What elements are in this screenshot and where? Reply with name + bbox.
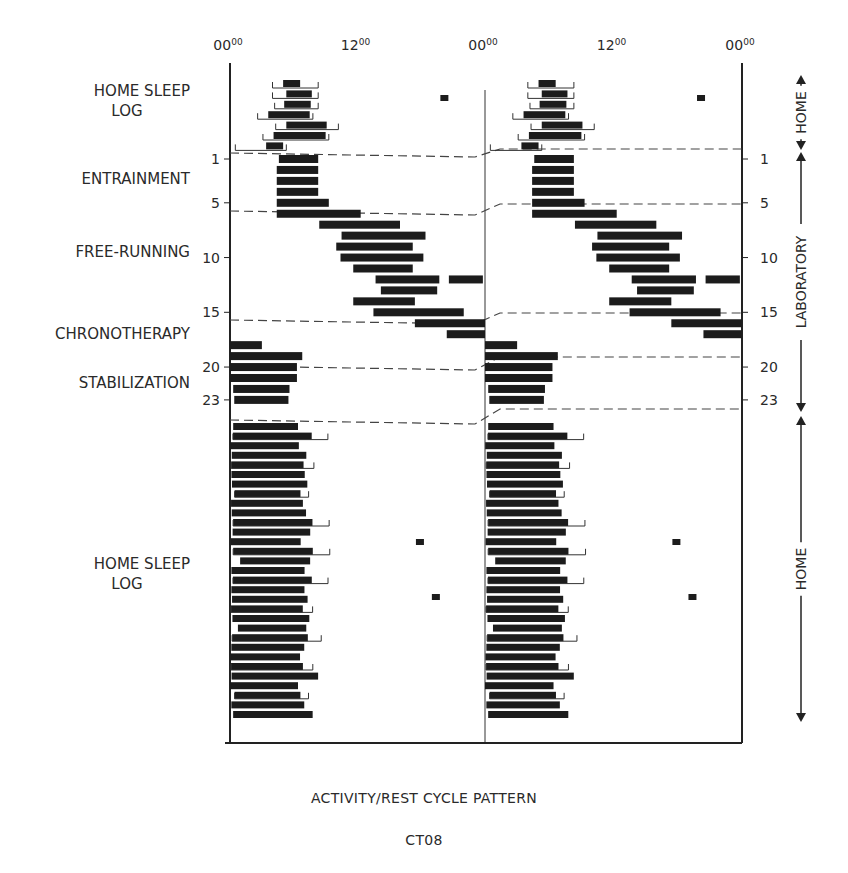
sleep-bar (521, 142, 538, 149)
sleep-bar (529, 132, 581, 139)
sleep-bar (233, 519, 312, 526)
phase-labels: HOME SLEEPLOGENTRAINMENTFREE-RUNNINGCHRO… (55, 82, 191, 593)
sleep-bar (233, 529, 311, 536)
arrow-up-icon (796, 75, 806, 84)
sleep-bar (277, 166, 318, 174)
sleep-bar (230, 341, 262, 349)
sleep-bar (487, 481, 563, 488)
sleep-bar (231, 461, 303, 468)
sleep-bar (274, 132, 326, 139)
sleep-bar (485, 363, 552, 371)
sleep-bar (268, 111, 309, 118)
day-tick-label: 15 (760, 304, 778, 320)
sleep-bar (373, 308, 463, 316)
sleep-bar (232, 452, 307, 459)
sleep-bar (597, 232, 682, 240)
sleep-bar (488, 577, 567, 584)
sleep-bar (234, 396, 288, 404)
sleep-bar (266, 142, 283, 149)
sleep-bar (671, 319, 742, 327)
phase-label: HOME SLEEP (94, 82, 190, 100)
sleep-bar (486, 538, 557, 545)
sleep-bar (485, 653, 555, 660)
location-label: HOME (793, 548, 809, 590)
sleep-bar (231, 567, 304, 574)
sleep-bar (231, 644, 304, 651)
sleep-bar (231, 471, 304, 478)
sleep-bar (353, 297, 415, 305)
sleep-bar (230, 363, 297, 371)
x-tick-label: 0000 (725, 37, 755, 53)
sleep-bar (235, 692, 301, 699)
sleep-bar (485, 374, 552, 382)
arrow-down-icon (796, 713, 806, 722)
sleep-bar (488, 519, 568, 526)
day-tick-label: 1 (211, 151, 220, 167)
nap-bar (440, 95, 448, 101)
sleep-bar (532, 199, 584, 207)
sleep-bar (232, 673, 319, 680)
sleep-bar (539, 80, 556, 87)
x-axis-ticks: 00001200000012000000 (213, 37, 755, 53)
day-tick-label: 15 (202, 304, 220, 320)
sleep-bar (341, 254, 424, 262)
sleep-bar (532, 177, 574, 185)
sleep-bar (230, 653, 300, 660)
sleep-bar (486, 471, 560, 478)
arrow-down-icon (796, 141, 806, 150)
sleep-bar (286, 122, 326, 129)
sleep-bar (232, 509, 306, 516)
sleep-bar (238, 625, 306, 632)
x-tick-label: 1200 (341, 37, 371, 53)
sleep-bar (231, 701, 304, 708)
sleep-bar (532, 188, 574, 196)
phase-label: ENTRAINMENT (82, 170, 191, 188)
sleep-bar (486, 701, 559, 708)
sleep-bar (637, 286, 694, 294)
location-label: HOME (793, 91, 809, 133)
sleep-bar (231, 538, 301, 545)
location-brackets: HOMELABORATORYHOME (793, 75, 809, 722)
sleep-bar (534, 155, 574, 163)
day-tick-label: 10 (202, 250, 220, 266)
day-tick-label: 23 (202, 392, 220, 408)
sleep-bar (486, 605, 558, 612)
nap-bar (697, 95, 705, 101)
sleep-bars (230, 80, 742, 718)
actogram-chart: 00001200000012000000 1155101015152020232… (0, 0, 848, 873)
sleep-bar (487, 452, 562, 459)
sleep-bar (488, 433, 567, 440)
sleep-bar (489, 396, 544, 404)
sleep-bar (233, 423, 298, 430)
sleep-bar (447, 330, 485, 338)
arrow-up-icon (796, 416, 806, 425)
sleep-bar (596, 254, 680, 262)
sleep-bar (493, 625, 562, 632)
phase-divider (230, 409, 742, 424)
sleep-bar (449, 275, 483, 283)
sleep-bar (485, 442, 554, 449)
sleep-bar (283, 80, 300, 87)
sleep-bar (486, 663, 558, 670)
subject-id: CT08 (0, 832, 848, 848)
sleep-bar (233, 548, 313, 555)
sleep-bar (381, 286, 437, 294)
sleep-bar (284, 101, 311, 108)
arrow-down-icon (796, 403, 806, 412)
sleep-bar (232, 615, 309, 622)
sleep-bar (279, 155, 318, 163)
sleep-bar (486, 644, 559, 651)
sleep-bar (232, 596, 308, 603)
sleep-bar (488, 529, 566, 536)
day-tick-label: 20 (202, 359, 220, 375)
sleep-bar (609, 265, 669, 273)
sleep-bar (632, 275, 696, 283)
sleep-bar (353, 265, 413, 273)
sleep-bar (286, 90, 312, 97)
sleep-bar (487, 634, 563, 641)
sleep-bar (609, 297, 671, 305)
sleep-bar (319, 221, 400, 229)
phase-label: HOME SLEEP (94, 555, 190, 573)
nap-bar (432, 594, 440, 600)
nap-bar (688, 594, 696, 600)
